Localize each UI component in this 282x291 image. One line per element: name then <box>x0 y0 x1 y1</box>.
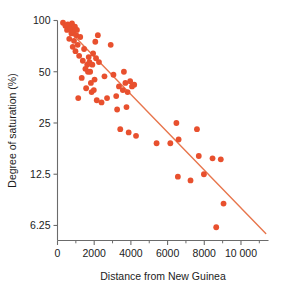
data-point <box>108 42 114 48</box>
data-point <box>75 95 81 101</box>
data-point <box>73 48 79 54</box>
y-axis-tick-labels: 100502512.56.25 <box>30 14 51 231</box>
y-tick-label: 12.5 <box>30 168 51 180</box>
data-point <box>131 82 137 88</box>
data-point <box>218 156 224 162</box>
data-point <box>125 89 131 95</box>
y-tick-label: 25 <box>39 117 51 129</box>
data-point <box>79 75 85 81</box>
data-point <box>196 153 202 159</box>
x-axis-tick-labels: 0200040006000800010 000 <box>55 247 258 259</box>
data-point <box>154 140 160 146</box>
y-tick-label: 100 <box>33 14 51 26</box>
data-point <box>87 69 93 75</box>
data-point <box>126 130 132 136</box>
data-point <box>77 34 83 40</box>
data-point <box>213 224 219 230</box>
data-point <box>221 201 227 207</box>
data-point <box>194 126 200 132</box>
data-point <box>80 58 86 64</box>
chart-figure: 100502512.56.25 0200040006000800010 000 … <box>0 0 282 291</box>
y-tick-label: 50 <box>39 66 51 78</box>
data-point <box>91 87 97 93</box>
data-point <box>167 140 173 146</box>
data-point <box>104 95 110 101</box>
y-axis-ticks <box>54 21 58 226</box>
data-point <box>201 171 207 177</box>
data-point <box>75 42 81 48</box>
data-point <box>95 32 101 38</box>
data-point <box>173 120 179 126</box>
data-point <box>176 137 182 143</box>
x-tick-label: 10 000 <box>225 247 257 259</box>
data-point <box>89 62 95 68</box>
data-point <box>96 59 102 65</box>
scatter-plot: 100502512.56.25 0200040006000800010 000 … <box>0 0 282 291</box>
x-axis-title: Distance from New Guinea <box>100 270 226 282</box>
data-point <box>113 93 119 99</box>
data-point <box>117 126 123 132</box>
data-point <box>133 133 139 139</box>
x-tick-label: 6000 <box>156 247 180 259</box>
data-point <box>83 85 89 91</box>
data-points <box>60 20 226 230</box>
data-point <box>102 73 108 79</box>
data-point <box>74 27 80 33</box>
y-axis-title: Degree of saturation (%) <box>6 73 18 187</box>
data-point <box>114 107 120 113</box>
x-tick-label: 2000 <box>83 247 107 259</box>
data-point <box>92 39 98 45</box>
data-point <box>92 77 98 83</box>
data-point <box>76 53 82 59</box>
x-tick-label: 8000 <box>193 247 217 259</box>
data-point <box>124 104 130 110</box>
data-point <box>210 155 216 161</box>
data-point <box>111 72 117 78</box>
data-point <box>188 177 194 183</box>
y-tick-label: 6.25 <box>30 219 51 231</box>
data-point <box>175 174 181 180</box>
x-tick-label: 0 <box>55 247 61 259</box>
x-tick-label: 4000 <box>119 247 143 259</box>
data-point <box>81 46 87 52</box>
plot-axes <box>58 21 269 241</box>
data-point <box>121 69 127 75</box>
data-point <box>99 100 105 106</box>
